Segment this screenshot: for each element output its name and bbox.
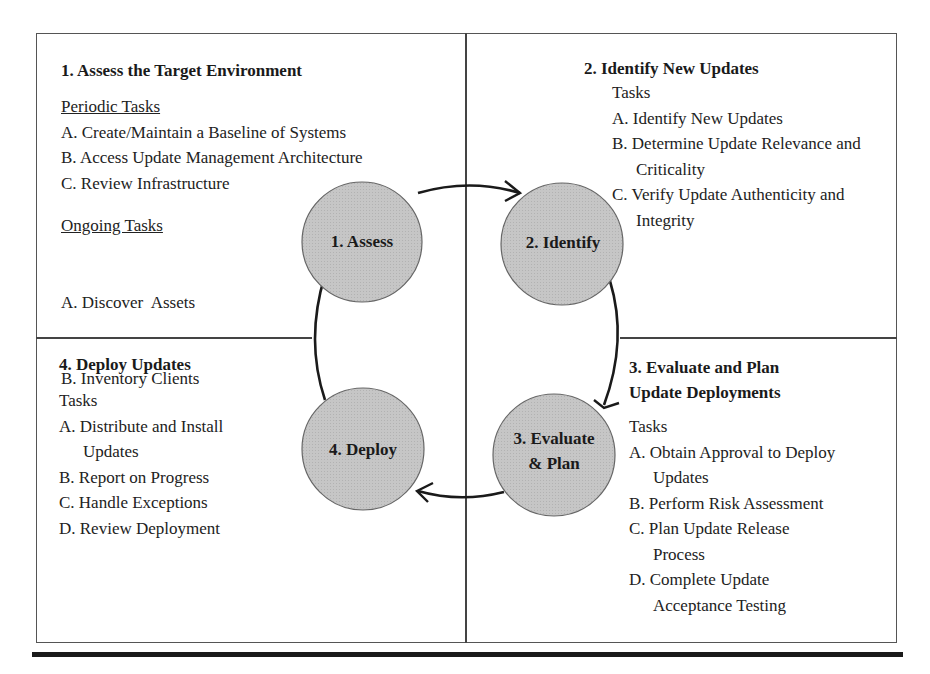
arrow-deploy-to-assess <box>315 275 325 400</box>
node-label-assess: 1. Assess <box>312 231 412 253</box>
arrow-evaluate-to-deploy <box>418 491 504 497</box>
node-label-deploy: 4. Deploy <box>313 439 413 461</box>
node-label-identify: 2. Identify <box>507 232 619 254</box>
cycle-diagram <box>0 0 930 674</box>
node-label-line1: 3. Evaluate <box>496 428 612 450</box>
arrow-assess-to-identify <box>418 186 520 194</box>
node-label-line2: & Plan <box>496 453 612 475</box>
node-label-evaluate: 3. Evaluate & Plan <box>496 428 612 475</box>
arrow-identify-to-evaluate <box>604 281 618 405</box>
